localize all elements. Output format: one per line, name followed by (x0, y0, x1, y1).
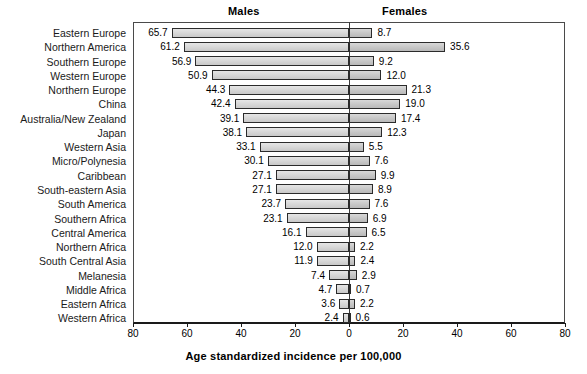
chart-row: South-eastern Asia27.18.9 (0, 183, 587, 197)
female-value-label: 9.9 (381, 169, 395, 183)
axis-tick-label: 40 (442, 328, 472, 340)
female-bar (349, 99, 400, 109)
region-label: South America (0, 197, 126, 211)
chart-row: Australia/New Zealand39.117.4 (0, 112, 587, 126)
region-label: Central America (0, 226, 126, 240)
axis-tick-label: 60 (496, 328, 526, 340)
male-bar (317, 242, 349, 252)
male-bar (172, 28, 349, 38)
male-value-label: 50.9 (166, 69, 208, 83)
female-bar (349, 156, 370, 166)
axis-tick (565, 323, 566, 327)
axis-tick-label: 20 (280, 328, 310, 340)
axis-tick (511, 323, 512, 327)
region-label: Western Africa (0, 311, 126, 325)
axis-tick (349, 323, 350, 327)
chart-row: China42.419.0 (0, 97, 587, 111)
male-bar (246, 127, 349, 137)
male-bar (243, 113, 349, 123)
female-value-label: 17.4 (401, 112, 420, 126)
male-value-label: 39.1 (197, 112, 239, 126)
male-bar (276, 170, 349, 180)
female-bar (349, 127, 382, 137)
female-bar (349, 85, 407, 95)
chart-row: Melanesia7.42.9 (0, 269, 587, 283)
region-label: Australia/New Zealand (0, 112, 126, 126)
population-pyramid-chart: Males Females Eastern Europe65.78.7North… (0, 0, 587, 374)
female-bar (349, 170, 376, 180)
female-bar (349, 113, 396, 123)
male-value-label: 27.1 (230, 169, 272, 183)
chart-row: Caribbean27.19.9 (0, 169, 587, 183)
female-bar (349, 270, 357, 280)
chart-row: South America23.77.6 (0, 197, 587, 211)
male-bar (287, 213, 349, 223)
male-bar (285, 199, 349, 209)
male-bar (184, 42, 349, 52)
region-label: Western Asia (0, 140, 126, 154)
axis-tick (133, 323, 134, 327)
male-value-label: 38.1 (200, 126, 242, 140)
female-value-label: 6.5 (372, 226, 386, 240)
chart-row: Eastern Africa3.62.2 (0, 297, 587, 311)
axis-tick-label: 80 (118, 328, 148, 340)
female-value-label: 7.6 (375, 197, 389, 211)
female-value-label: 35.6 (450, 40, 469, 54)
female-value-label: 2.2 (360, 297, 374, 311)
chart-row: Northern Africa12.02.2 (0, 240, 587, 254)
female-value-label: 21.3 (412, 83, 431, 97)
female-bar (349, 199, 370, 209)
axis-tick-label: 80 (550, 328, 580, 340)
male-value-label: 30.1 (222, 154, 264, 168)
chart-row: Eastern Europe65.78.7 (0, 26, 587, 40)
axis-tick-label: 40 (226, 328, 256, 340)
chart-row: Southern Africa23.16.9 (0, 212, 587, 226)
chart-row: Northern Europe44.321.3 (0, 83, 587, 97)
male-value-label: 27.1 (230, 183, 272, 197)
chart-row: Northern America61.235.6 (0, 40, 587, 54)
female-bar (349, 256, 355, 266)
male-bar (329, 270, 349, 280)
region-label: Northern Europe (0, 83, 126, 97)
chart-row: Western Asia33.15.5 (0, 140, 587, 154)
region-label: China (0, 97, 126, 111)
female-value-label: 12.0 (386, 69, 405, 83)
male-bar (212, 70, 349, 80)
male-bar (339, 299, 349, 309)
region-label: Middle Africa (0, 283, 126, 297)
chart-row: Micro/Polynesia30.17.6 (0, 154, 587, 168)
region-label: Southern Europe (0, 55, 126, 69)
male-value-label: 23.1 (241, 212, 283, 226)
male-value-label: 65.7 (126, 26, 168, 40)
chart-row: Central America16.16.5 (0, 226, 587, 240)
region-label: Micro/Polynesia (0, 154, 126, 168)
male-value-label: 61.2 (138, 40, 180, 54)
chart-row: Japan38.112.3 (0, 126, 587, 140)
female-value-label: 5.5 (369, 140, 383, 154)
region-label: Melanesia (0, 269, 126, 283)
female-bar (349, 213, 368, 223)
region-label: South Central Asia (0, 254, 126, 268)
axis-tick (241, 323, 242, 327)
chart-row: Southern Europe56.99.2 (0, 55, 587, 69)
male-bar (260, 142, 349, 152)
male-value-label: 16.1 (260, 226, 302, 240)
male-value-label: 12.0 (271, 240, 313, 254)
female-bar (349, 242, 355, 252)
female-value-label: 0.7 (356, 283, 370, 297)
male-bar (343, 313, 349, 323)
female-bar (349, 70, 381, 80)
male-bar (276, 184, 349, 194)
chart-row: South Central Asia11.92.4 (0, 254, 587, 268)
female-value-label: 9.2 (379, 55, 393, 69)
region-label: Western Europe (0, 69, 126, 83)
axis-tick-label: 20 (388, 328, 418, 340)
female-value-label: 6.9 (373, 212, 387, 226)
male-bar (268, 156, 349, 166)
region-label: Eastern Africa (0, 297, 126, 311)
female-value-label: 2.9 (362, 269, 376, 283)
male-value-label: 23.7 (239, 197, 281, 211)
males-header-label: Males (228, 5, 260, 17)
male-value-label: 4.7 (290, 283, 332, 297)
female-value-label: 2.2 (360, 240, 374, 254)
